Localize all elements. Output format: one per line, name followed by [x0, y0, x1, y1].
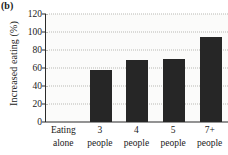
y-tick-label: 120 — [28, 10, 42, 19]
x-category-label: Eatingalone — [45, 124, 82, 150]
x-category-line-1: 4 — [118, 124, 155, 137]
x-category-line-2: people — [118, 137, 155, 150]
x-category-line-1: 5 — [155, 124, 192, 137]
x-category-line-2: people — [155, 137, 192, 150]
y-tick-label: 80 — [33, 46, 43, 55]
x-category-line-1: Eating — [45, 124, 82, 137]
x-category-label: 3people — [82, 124, 119, 150]
bar-slot — [83, 14, 120, 122]
x-category-label: 5people — [155, 124, 192, 150]
y-tick-label: 40 — [33, 82, 43, 91]
x-category-label: 7+people — [191, 124, 228, 150]
y-tick-label: 100 — [28, 28, 42, 37]
x-category-line-2: people — [191, 137, 228, 150]
x-category-line-2: people — [82, 137, 119, 150]
bar — [90, 70, 112, 122]
y-axis-tick-labels: 020406080100120 — [16, 14, 42, 122]
figure-panel-b: (b) Increased eating (%) 020406080100120… — [0, 0, 228, 155]
x-axis-category-labels: Eatingalone3people4people5people7+people — [45, 124, 228, 155]
y-tick-label: 60 — [33, 64, 43, 73]
bar-slot — [192, 14, 228, 122]
bar — [126, 60, 148, 122]
x-category-label: 4people — [118, 124, 155, 150]
bar-slot — [119, 14, 156, 122]
bar-slot — [156, 14, 193, 122]
y-tick-label: 20 — [33, 100, 43, 109]
bar — [163, 59, 185, 122]
plot-area — [45, 14, 228, 122]
bar — [200, 37, 222, 122]
x-category-line-1: 3 — [82, 124, 119, 137]
x-category-line-1: 7+ — [191, 124, 228, 137]
x-category-line-2: alone — [45, 137, 82, 150]
bar-series — [46, 14, 228, 122]
bar-slot — [46, 14, 83, 122]
